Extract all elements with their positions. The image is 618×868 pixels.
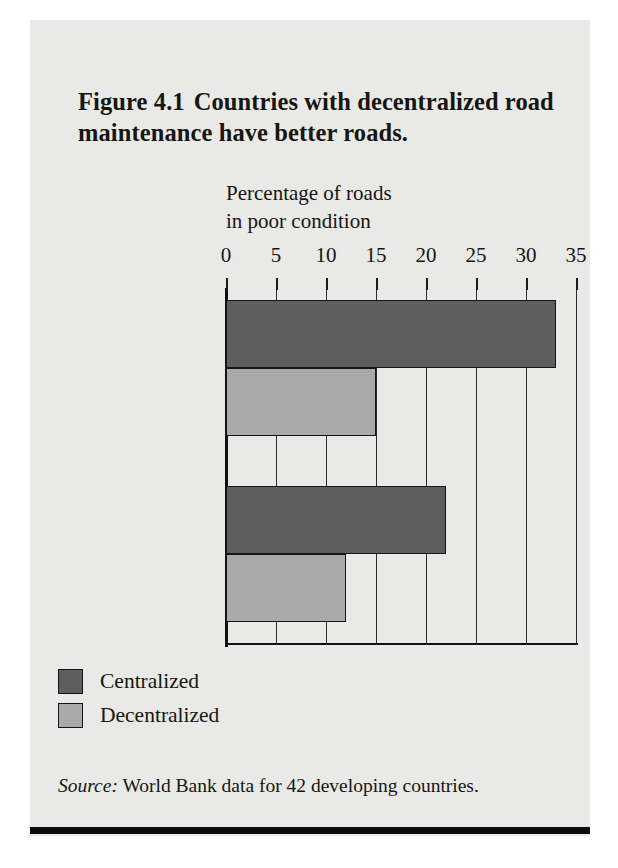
x-tick-mark: [326, 278, 328, 290]
gridline: [576, 290, 577, 645]
legend-item: Centralized: [58, 664, 219, 698]
x-tick-labels: 05101520253035: [226, 243, 606, 271]
figure-source: Source: World Bank data for 42 developin…: [58, 775, 479, 797]
legend-item: Decentralized: [58, 698, 219, 732]
x-tick-mark: [576, 278, 578, 290]
x-tick-label: 20: [416, 243, 437, 268]
x-tick-label: 15: [366, 243, 387, 268]
x-tick-label: 0: [221, 243, 232, 268]
bar-centralized-unpaved: [226, 300, 556, 368]
bar-decentralized-paved: [226, 554, 346, 622]
x-tick-mark: [526, 278, 528, 290]
x-axis-title: Percentage of roads in poor condition: [226, 180, 556, 235]
x-tick-mark: [226, 278, 228, 290]
legend-swatch: [58, 703, 83, 728]
source-label: Source:: [58, 775, 118, 796]
x-tick-mark: [426, 278, 428, 290]
x-tick-label: 5: [271, 243, 282, 268]
x-tick-label: 10: [316, 243, 337, 268]
legend-label: Decentralized: [100, 703, 219, 728]
chart-legend: CentralizedDecentralized: [58, 664, 219, 732]
x-tick-mark: [476, 278, 478, 290]
bar-centralized-paved: [226, 486, 446, 554]
bottom-rule: [30, 827, 590, 834]
legend-swatch: [58, 669, 83, 694]
x-tick-mark: [376, 278, 378, 290]
figure-number: Figure 4.1: [78, 88, 185, 115]
x-tick-label: 30: [516, 243, 537, 268]
bar-decentralized-unpaved: [226, 368, 376, 436]
plot-area: Unpaved roadsPaved roads: [226, 290, 576, 645]
x-tick-mark: [276, 278, 278, 290]
x-axis-title-line2: in poor condition: [226, 208, 556, 236]
x-tick-label: 25: [466, 243, 487, 268]
x-axis-title-line1: Percentage of roads: [226, 180, 556, 208]
legend-label: Centralized: [100, 669, 199, 694]
source-text: World Bank data for 42 developing countr…: [122, 775, 478, 796]
figure-title: Figure 4.1Countries with decentralized r…: [78, 86, 598, 148]
x-tick-label: 35: [566, 243, 587, 268]
